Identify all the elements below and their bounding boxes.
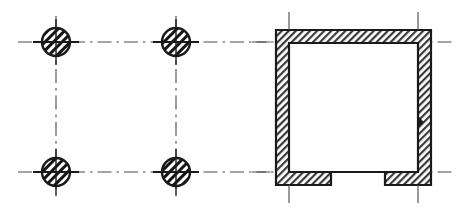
architectural-drawing-canvas	[0, 0, 463, 222]
column-col-A2	[33, 149, 79, 195]
column-col-B1	[153, 19, 199, 65]
wall-enclosure-group	[276, 30, 431, 185]
column-group	[33, 19, 199, 195]
wall-section-hatched	[276, 30, 431, 185]
floor-plan-svg	[0, 0, 463, 222]
column-col-A1	[33, 19, 79, 65]
column-col-B2	[153, 149, 199, 195]
